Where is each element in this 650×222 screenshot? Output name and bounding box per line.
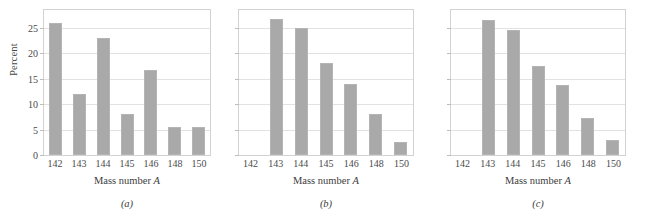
bar-145 — [532, 66, 545, 155]
y-tick-mark — [40, 155, 44, 156]
x-tick-label: 143 — [263, 158, 288, 169]
bar-146 — [344, 84, 357, 155]
x-tick-label: 150 — [601, 158, 626, 169]
x-tick-label: 146 — [339, 158, 364, 169]
bar-slot — [550, 10, 575, 155]
x-tick-label: 150 — [389, 158, 414, 169]
bar-slot — [68, 10, 92, 155]
x-tick-label: 143 — [475, 158, 500, 169]
bar-slot — [186, 10, 210, 155]
x-axis-symbol: A — [154, 175, 160, 186]
bar-slot — [451, 10, 476, 155]
bar-145 — [121, 114, 134, 155]
x-tick-label: 145 — [313, 158, 338, 169]
bar-slot — [476, 10, 501, 155]
x-tick-label: 143 — [67, 158, 91, 169]
x-axis-label-c: Mass number A — [450, 175, 626, 186]
bar-143 — [482, 20, 495, 155]
y-tick-label: 0 — [33, 150, 38, 161]
y-tick-mark — [447, 155, 451, 156]
bar-slot — [115, 10, 139, 155]
bar-143 — [270, 19, 283, 155]
bars-c — [451, 10, 625, 155]
x-tick-label: 148 — [576, 158, 601, 169]
x-tick-label: 148 — [364, 158, 389, 169]
bar-slot — [314, 10, 339, 155]
x-tick-label: 144 — [500, 158, 525, 169]
plot-area-a: 0510152025 — [43, 9, 211, 156]
y-tick-label: 5 — [33, 124, 38, 135]
bar-slot — [264, 10, 289, 155]
bar-slot — [526, 10, 551, 155]
x-tick-label: 142 — [43, 158, 67, 169]
bars-b — [239, 10, 413, 155]
bar-142 — [49, 23, 62, 155]
bar-slot — [44, 10, 68, 155]
x-axis-label-b: Mass number A — [238, 175, 414, 186]
y-tick-label: 10 — [28, 99, 38, 110]
panel-tag-c: (c) — [450, 198, 626, 209]
y-tick-label: 25 — [28, 22, 38, 33]
x-tick-label: 146 — [139, 158, 163, 169]
bar-slot — [600, 10, 625, 155]
bar-144 — [97, 38, 110, 155]
bar-slot — [91, 10, 115, 155]
x-tick-label: 150 — [187, 158, 211, 169]
bar-slot — [289, 10, 314, 155]
x-tick-label: 148 — [163, 158, 187, 169]
bar-slot — [163, 10, 187, 155]
bar-148 — [581, 118, 594, 155]
bar-148 — [168, 127, 181, 155]
x-tick-label: 146 — [551, 158, 576, 169]
panel-c: 142143144145146148150 Mass number A (c) — [430, 0, 650, 222]
x-axis-label-a: Mass number A — [43, 175, 211, 186]
bar-144 — [295, 28, 308, 155]
y-tick-label: 20 — [28, 48, 38, 59]
x-axis-symbol: A — [353, 175, 359, 186]
x-tick-labels-b: 142143144145146148150 — [238, 158, 414, 169]
panel-a: Percent 0510152025 142143144145146148150… — [0, 0, 218, 222]
plot-area-b — [238, 9, 414, 156]
bar-slot — [575, 10, 600, 155]
x-tick-labels-a: 142143144145146148150 — [43, 158, 211, 169]
bar-146 — [556, 85, 569, 155]
x-tick-label: 142 — [238, 158, 263, 169]
bar-146 — [144, 70, 157, 155]
x-tick-label: 145 — [525, 158, 550, 169]
bar-slot — [388, 10, 413, 155]
y-tick-label: 15 — [28, 73, 38, 84]
x-tick-label: 144 — [288, 158, 313, 169]
plot-area-c — [450, 9, 626, 156]
figure-three-panel-bar-charts: Percent 0510152025 142143144145146148150… — [0, 0, 650, 222]
bar-145 — [320, 63, 333, 155]
bar-150 — [192, 127, 205, 155]
x-tick-label: 144 — [91, 158, 115, 169]
x-tick-label: 145 — [115, 158, 139, 169]
bar-150 — [606, 140, 619, 155]
bar-143 — [73, 94, 86, 155]
bars-a — [44, 10, 210, 155]
x-tick-label: 142 — [450, 158, 475, 169]
bar-144 — [507, 30, 520, 155]
x-axis-symbol: A — [565, 175, 571, 186]
panel-tag-a: (a) — [43, 198, 211, 209]
y-tick-mark — [235, 155, 239, 156]
panel-b: 142143144145146148150 Mass number A (b) — [218, 0, 430, 222]
bar-150 — [394, 142, 407, 155]
panel-tag-b: (b) — [238, 198, 414, 209]
bar-slot — [139, 10, 163, 155]
x-tick-labels-c: 142143144145146148150 — [450, 158, 626, 169]
bar-slot — [239, 10, 264, 155]
bar-slot — [501, 10, 526, 155]
bar-slot — [363, 10, 388, 155]
bar-148 — [369, 114, 382, 155]
bar-slot — [338, 10, 363, 155]
